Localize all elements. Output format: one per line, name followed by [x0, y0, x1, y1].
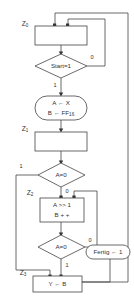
diamond-start-text: Start=1 [51, 62, 72, 69]
edge-label-a0first-zero: 0 [65, 188, 68, 194]
oval-init-line1: A ← X [52, 99, 70, 106]
node-decision-a0-second[interactable]: A=0 [38, 235, 85, 259]
node-z1[interactable] [35, 132, 87, 151]
edge-label-a0second-one: 1 [65, 262, 68, 268]
edge-a0first1-to-z3 [16, 175, 50, 276]
node-z2[interactable]: A >> 1 B + + [40, 198, 84, 222]
state-label-z1: Z1 [22, 125, 29, 133]
node-z3[interactable]: Y ← B [33, 276, 82, 292]
box-z1[interactable] [35, 132, 87, 151]
node-oval-fertig[interactable]: Fertig ← 1 [86, 245, 130, 259]
diamond-a0-second-text: A=0 [55, 243, 67, 250]
state-label-z0: Z0 [22, 20, 29, 28]
box-z2-line2: B + + [55, 211, 70, 218]
box-z2-line1: A >> 1 [53, 201, 71, 208]
node-decision-a0-first[interactable]: A=0 [38, 163, 85, 187]
edge-label-start-one: 1 [53, 82, 56, 88]
box-z3-text: Y ← B [49, 280, 67, 287]
edge-label-a0second-zero: 0 [88, 237, 91, 243]
edge-label-start-zero: 0 [90, 54, 93, 60]
edge-z3-to-fertig [82, 258, 110, 282]
node-oval-init[interactable]: A ← X B ← FF16 [35, 96, 87, 120]
oval-fertig-text: Fertig ← 1 [94, 248, 123, 255]
edge-label-a0first-one: 1 [19, 163, 22, 169]
flowchart-canvas: Z0 Start=1 0 1 A ← X B ← FF16 Z1 A=0 1 0 [0, 0, 134, 302]
node-decision-start[interactable]: Start=1 [35, 54, 87, 78]
state-label-z2: Z2 [27, 189, 34, 197]
box-z0[interactable] [35, 26, 87, 45]
flowchart-svg: Z0 Start=1 0 1 A ← X B ← FF16 Z1 A=0 1 0 [0, 0, 134, 302]
diamond-a0-first-text: A=0 [55, 171, 67, 178]
node-z0[interactable] [35, 26, 87, 45]
